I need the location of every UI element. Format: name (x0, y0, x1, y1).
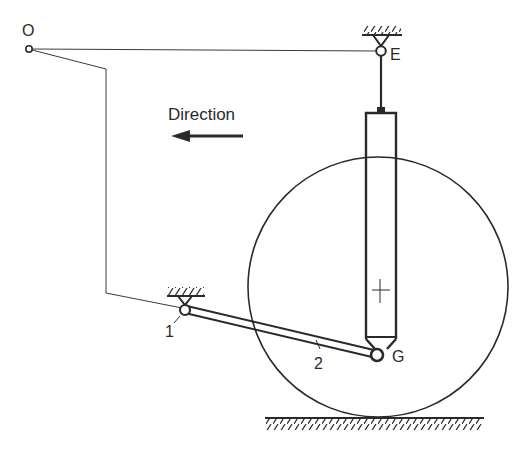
suspension-diagram: O E 1 G 2 Direction (0, 0, 519, 450)
direction-label: Direction (168, 105, 235, 124)
point-o-label: O (22, 22, 34, 39)
line-o-to-pivot-1 (32, 50, 182, 308)
link-2-bar (185, 306, 374, 357)
wheel (248, 157, 508, 417)
line-o-to-e (32, 49, 377, 51)
point-o-icon (26, 46, 32, 52)
point-g-label: G (392, 348, 404, 365)
ground-surface (265, 418, 484, 430)
pivot-1-label: 1 (165, 323, 174, 340)
pivot-1-icon (180, 305, 190, 315)
center-mark-icon (372, 279, 390, 303)
direction-arrow-icon (171, 130, 243, 142)
point-g-icon (371, 349, 383, 361)
fixed-support-e-icon (362, 26, 402, 46)
fixed-support-1-icon (167, 287, 205, 305)
shock-absorber (366, 113, 396, 349)
pivot-1-leader (174, 316, 180, 323)
construction-lines (32, 49, 377, 308)
point-e-label: E (390, 46, 401, 63)
point-e-icon (376, 46, 386, 56)
link-2-label: 2 (314, 355, 323, 372)
